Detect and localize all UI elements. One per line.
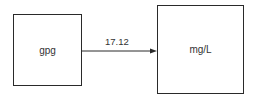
target-unit-label: mg/L: [189, 44, 211, 55]
target-unit-box: mg/L: [157, 5, 244, 94]
conversion-factor-label: 17.12: [105, 36, 129, 47]
